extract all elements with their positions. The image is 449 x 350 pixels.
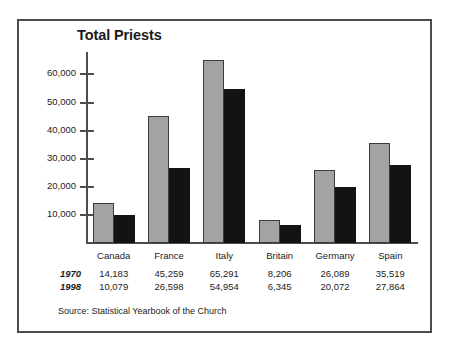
table-row: 197014,18345,25965,2918,20626,08935,519 bbox=[40, 268, 420, 281]
y-axis-tick-label: 50,000 bbox=[0, 96, 76, 107]
bar-spain-1998 bbox=[390, 165, 411, 243]
bar-france-1998 bbox=[169, 168, 190, 243]
bar-britain-1998 bbox=[280, 225, 301, 243]
y-axis-tick-label: 20,000 bbox=[0, 180, 76, 191]
y-axis-tick-label: 40,000 bbox=[0, 124, 76, 135]
bar-germany-1970 bbox=[314, 170, 335, 243]
chart-title: Total Priests bbox=[77, 27, 162, 43]
table-cell: 65,291 bbox=[197, 268, 252, 279]
bar-spain-1970 bbox=[369, 143, 390, 243]
bar-britain-1970 bbox=[259, 220, 280, 243]
table-row: 199810,07926,59854,9546,34520,07227,864 bbox=[40, 281, 420, 294]
bar-canada-1970 bbox=[93, 203, 114, 243]
table-cell: 6,345 bbox=[252, 281, 307, 292]
category-axis-labels: CanadaFranceItalyBritainGermanySpain bbox=[86, 250, 418, 264]
table-cell: 8,206 bbox=[252, 268, 307, 279]
category-label-france: France bbox=[141, 250, 196, 261]
data-value-table: 197014,18345,25965,2918,20626,08935,5191… bbox=[40, 268, 420, 298]
bar-canada-1998 bbox=[114, 215, 135, 243]
y-axis-tick-label: 30,000 bbox=[0, 152, 76, 163]
category-label-spain: Spain bbox=[363, 250, 418, 261]
source-note: Source: Statistical Yearbook of the Chur… bbox=[58, 306, 227, 316]
table-cell: 45,259 bbox=[141, 268, 196, 279]
table-cell: 20,072 bbox=[307, 281, 362, 292]
bar-france-1970 bbox=[148, 116, 169, 243]
category-label-germany: Germany bbox=[307, 250, 362, 261]
bar-italy-1970 bbox=[203, 60, 224, 243]
y-axis-tick-label: 10,000 bbox=[0, 208, 76, 219]
table-cell: 10,079 bbox=[86, 281, 141, 292]
table-cell: 14,183 bbox=[86, 268, 141, 279]
table-cell: 26,089 bbox=[307, 268, 362, 279]
plot-area bbox=[86, 52, 418, 243]
bar-italy-1998 bbox=[224, 89, 245, 243]
chart-figure: Total Priests 10,00020,00030,00040,00050… bbox=[0, 0, 449, 350]
y-axis-tick-label: 60,000 bbox=[0, 67, 76, 78]
category-label-britain: Britain bbox=[252, 250, 307, 261]
table-cell: 35,519 bbox=[363, 268, 418, 279]
table-cell: 27,864 bbox=[363, 281, 418, 292]
category-label-italy: Italy bbox=[197, 250, 252, 261]
table-cell: 54,954 bbox=[197, 281, 252, 292]
bar-germany-1998 bbox=[335, 187, 356, 243]
category-label-canada: Canada bbox=[86, 250, 141, 261]
table-cell: 26,598 bbox=[141, 281, 196, 292]
